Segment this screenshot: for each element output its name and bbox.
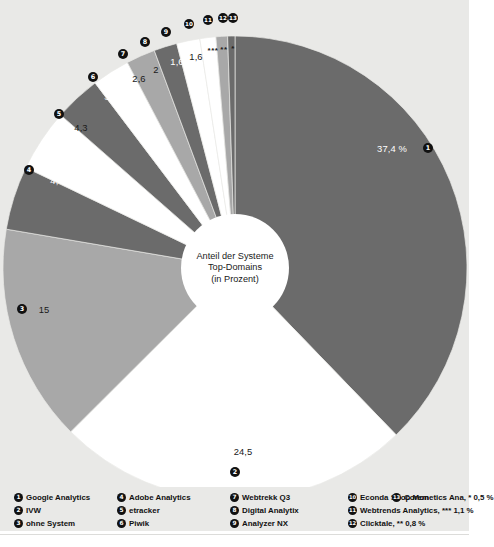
- center-line-3: (in Prozent): [211, 274, 259, 285]
- divider-line: [0, 534, 469, 535]
- legend-item-8[interactable]: 8Digital Analytix: [230, 504, 299, 517]
- legend-bullet-5: 5: [117, 506, 126, 515]
- legend-bullet-7: 7: [230, 493, 239, 502]
- legend-label-11: Webtrends Analytics, *** 1,1 %: [360, 506, 474, 515]
- legend-bullet-4: 4: [117, 493, 126, 502]
- slice-value-11: ***: [207, 46, 218, 55]
- legend-item-9[interactable]: 9Analyzer NX: [230, 517, 299, 530]
- slice-value-9: 1,6: [170, 56, 183, 67]
- legend-column-1: 1Google Analytics2IVW3ohne System: [14, 491, 90, 530]
- pie-bullet-9[interactable]: 9: [161, 27, 171, 37]
- legend-item-5[interactable]: 5etracker: [117, 504, 191, 517]
- legend-label-2: IVW: [26, 506, 41, 515]
- pie-bullet-2[interactable]: 2: [230, 467, 240, 477]
- legend-item-7[interactable]: 7Webtrekk Q3: [230, 491, 299, 504]
- legend-column-3: 7Webtrekk Q38Digital Analytix9Analyzer N…: [230, 491, 299, 530]
- slice-value-5: 4,3: [74, 122, 87, 133]
- legend-bullet-12: 12: [348, 519, 357, 528]
- legend-label-3: ohne System: [26, 519, 75, 528]
- slice-value-7: 2,6: [132, 73, 145, 84]
- legend-bullet-9: 9: [230, 519, 239, 528]
- legend-bullet-8: 8: [230, 506, 239, 515]
- legend-label-12: Clicktale, ** 0,8 %: [360, 519, 425, 528]
- slice-value-4: 4,4: [50, 175, 63, 186]
- chart-legend: 1Google Analytics2IVW3ohne System4Adobe …: [0, 487, 469, 531]
- slice-value-10: 1,6: [189, 51, 202, 62]
- footer-divider: [0, 531, 469, 547]
- legend-bullet-10: 10: [348, 493, 357, 502]
- legend-bullet-2: 2: [14, 506, 23, 515]
- pie-bullet-7[interactable]: 7: [118, 49, 128, 59]
- legend-bullet-6: 6: [117, 519, 126, 528]
- legend-label-13: Coremetics Ana, * 0,5 %: [404, 493, 494, 502]
- slice-value-12: **: [220, 45, 227, 54]
- slice-value-13: *: [231, 44, 235, 53]
- legend-bullet-13: 13: [392, 493, 401, 502]
- chart-area: Anteil der Systeme Top-Domains (in Proze…: [0, 0, 469, 487]
- center-line-2: Top-Domains: [208, 262, 262, 273]
- pie-bullet-10[interactable]: 10: [184, 19, 194, 29]
- slice-value-2: 24,5: [234, 446, 253, 457]
- legend-column-5: 13Coremetics Ana, * 0,5 %: [392, 491, 494, 504]
- slice-value-1: 37,4 %: [377, 143, 407, 154]
- legend-label-7: Webtrekk Q3: [242, 493, 290, 502]
- legend-item-11[interactable]: 11Webtrends Analytics, *** 1,1 %: [348, 504, 474, 517]
- legend-item-2[interactable]: 2IVW: [14, 504, 90, 517]
- pie-bullet-5[interactable]: 5: [54, 109, 64, 119]
- legend-bullet-1: 1: [14, 493, 23, 502]
- legend-label-8: Digital Analytix: [242, 506, 299, 515]
- pie-bullet-4[interactable]: 4: [24, 165, 34, 175]
- legend-item-4[interactable]: 4Adobe Analytics: [117, 491, 191, 504]
- legend-label-6: Piwik: [129, 519, 149, 528]
- slice-value-3: 15: [39, 304, 50, 315]
- pie-bullet-13[interactable]: 13: [228, 13, 238, 23]
- pie-bullet-8[interactable]: 8: [140, 37, 150, 47]
- pie-bullet-11[interactable]: 11: [203, 15, 213, 25]
- legend-item-13[interactable]: 13Coremetics Ana, * 0,5 %: [392, 491, 494, 504]
- pie-bullet-3[interactable]: 3: [17, 304, 27, 314]
- legend-label-9: Analyzer NX: [242, 519, 288, 528]
- legend-item-1[interactable]: 1Google Analytics: [14, 491, 90, 504]
- legend-bullet-3: 3: [14, 519, 23, 528]
- center-line-1: Anteil der Systeme: [196, 251, 273, 262]
- legend-label-1: Google Analytics: [26, 493, 90, 502]
- legend-item-3[interactable]: 3ohne System: [14, 517, 90, 530]
- legend-item-12[interactable]: 12Clicktale, ** 0,8 %: [348, 517, 474, 530]
- pie-bullet-12[interactable]: 12: [218, 13, 228, 23]
- legend-item-6[interactable]: 6Piwik: [117, 517, 191, 530]
- chart-center-label: Anteil der Systeme Top-Domains (in Proze…: [181, 214, 289, 322]
- legend-label-5: etracker: [129, 506, 160, 515]
- slice-value-8: 2: [153, 64, 158, 75]
- legend-column-2: 4Adobe Analytics5etracker6Piwik: [117, 491, 191, 530]
- legend-bullet-11: 11: [348, 506, 357, 515]
- legend-label-4: Adobe Analytics: [129, 493, 191, 502]
- pie-bullet-1[interactable]: 1: [423, 143, 433, 153]
- pie-bullet-6[interactable]: 6: [88, 72, 98, 82]
- slice-value-6: 3,2: [104, 91, 117, 102]
